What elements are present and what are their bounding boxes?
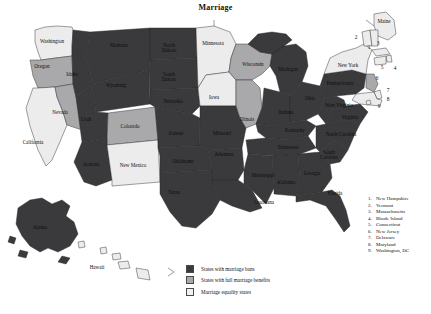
legend-swatch-marriage-equality: [186, 288, 194, 296]
key-pointer-icon: [168, 268, 174, 276]
state-north-dakota[interactable]: [150, 28, 197, 60]
state-rhode-island[interactable]: [386, 55, 392, 62]
key-label-9: Washington, DC: [376, 248, 409, 255]
state-new-york[interactable]: [324, 44, 372, 74]
maine-leader-line: [366, 20, 374, 26]
state-new-mexico[interactable]: [107, 140, 160, 186]
state-washington[interactable]: [35, 26, 73, 60]
state-hawaii[interactable]: [78, 241, 150, 280]
legend-swatch-full-benefits: [186, 276, 194, 284]
map-marker-5: 5: [381, 64, 384, 70]
map-marker-9: 9: [378, 103, 381, 109]
state-south-dakota[interactable]: [149, 58, 198, 90]
state-texas[interactable]: [160, 170, 220, 228]
state-arizona[interactable]: [74, 138, 112, 186]
state-washington-dc[interactable]: [366, 100, 371, 105]
state-massachusetts[interactable]: [372, 48, 390, 56]
state-alabama[interactable]: [272, 154, 300, 196]
legend-item-marriage-bans: States with marriage bans: [186, 265, 270, 273]
state-oregon[interactable]: [30, 56, 73, 88]
legend-item-full-benefits: States with full marriage benefits: [186, 276, 270, 284]
map-marker-2: 2: [355, 34, 358, 40]
map-marker-6: 6: [376, 75, 379, 81]
key-item-9: 9. Washington, DC: [368, 248, 409, 255]
state-colorado[interactable]: [107, 107, 158, 145]
map-marker-7: 7: [387, 87, 390, 93]
state-florida[interactable]: [296, 190, 350, 232]
legend-swatch-marriage-bans: [186, 265, 194, 273]
map-marker-4: 4: [394, 65, 397, 71]
state-arkansas[interactable]: [208, 148, 244, 180]
state-alaska[interactable]: [8, 198, 78, 264]
map-marker-3: 3: [377, 40, 380, 46]
legend-label-full-benefits: States with full marriage benefits: [201, 277, 270, 283]
legend-label-marriage-equality: Marriage equality states: [201, 289, 251, 295]
legend-item-marriage-equality: Marriage equality states: [186, 288, 270, 296]
legend-label-marriage-bans: States with marriage bans: [201, 266, 254, 272]
map-marker-8: 8: [387, 96, 390, 102]
key-number-9: 9.: [368, 248, 376, 255]
state-kansas[interactable]: [155, 107, 200, 148]
numbered-state-key: 1. New Hampshire 2. Vermont 3. Massachus…: [368, 196, 409, 255]
marriage-map-figure: Marriage: [0, 0, 431, 314]
map-legend: States with marriage bans States with fu…: [186, 265, 270, 299]
state-oklahoma[interactable]: [158, 146, 212, 173]
map-marker-1: 1: [368, 44, 371, 50]
